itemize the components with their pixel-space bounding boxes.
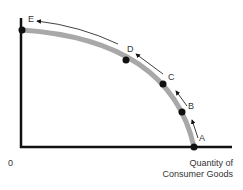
origin-label: 0: [8, 158, 13, 168]
x-axis-label-line1: Quantity of: [162, 158, 233, 169]
label-a: A: [199, 133, 205, 143]
label-d: D: [127, 44, 134, 54]
label-e: E: [28, 14, 34, 24]
ppf-curve: [22, 30, 194, 147]
point-d: [123, 57, 130, 64]
x-axis-label: Quantity of Consumer Goods: [162, 158, 233, 180]
point-b: [179, 109, 186, 116]
label-c: C: [168, 72, 175, 82]
x-axis-label-line2: Consumer Goods: [162, 169, 233, 180]
label-b: B: [188, 101, 194, 111]
point-a: [191, 144, 198, 151]
point-e: [19, 27, 26, 34]
point-c: [160, 81, 167, 88]
